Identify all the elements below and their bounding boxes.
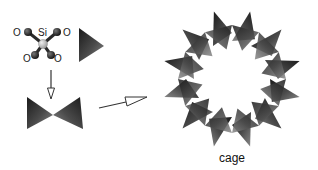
cage-pore [207, 56, 257, 106]
si-label: Si [38, 27, 47, 38]
down-arrow-icon [48, 70, 55, 99]
silicon-atom [39, 40, 48, 49]
oxygen-atom [53, 28, 61, 36]
o-label-top-left: O [13, 27, 21, 38]
silicate-cage-diagram: Si O O O O cage [0, 0, 318, 170]
o-label-bottom-right: O [54, 53, 62, 64]
oxygen-atom [24, 28, 32, 36]
o-label-bottom-left: O [23, 53, 31, 64]
oxygen-atom [31, 51, 39, 59]
tetrahedra-pair-icon [27, 97, 83, 129]
cage-structure [164, 11, 299, 146]
o-label-top-right: O [63, 27, 71, 38]
sio4-molecule: Si O O O O [13, 27, 71, 64]
right-arrow-icon [99, 97, 147, 108]
tetrahedron-icon [79, 28, 104, 62]
cage-label: cage [219, 151, 245, 165]
